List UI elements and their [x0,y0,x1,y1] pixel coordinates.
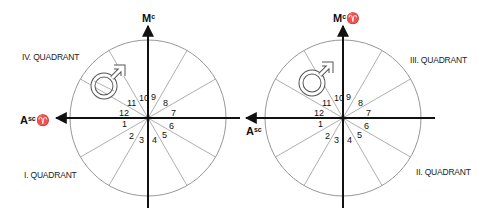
svg-text:4: 4 [347,135,352,145]
right-wheel: Mc♈ Asc III. QUADRANT II. QUADRANT 1 2 3… [246,12,471,208]
svg-text:9: 9 [151,92,156,102]
svg-text:9: 9 [346,92,351,102]
mc-label: Mc [142,12,155,24]
quadrant-label-iv: IV. QUADRANT [22,52,79,62]
asc-label: Asc♈ [20,114,50,127]
svg-text:6: 6 [364,121,369,131]
svg-text:7: 7 [171,108,176,118]
quadrant-label-iii: III. QUADRANT [410,55,467,65]
svg-text:3: 3 [334,135,339,145]
asc-label: Asc [246,125,262,137]
mars-icon [93,67,123,97]
svg-text:5: 5 [357,130,362,140]
svg-text:10: 10 [334,93,344,103]
svg-text:1: 1 [318,119,323,129]
svg-text:5: 5 [162,130,167,140]
svg-text:2: 2 [325,131,330,141]
svg-text:11: 11 [322,98,331,108]
svg-text:8: 8 [163,98,168,108]
quadrant-label-i: I. QUADRANT [24,170,77,180]
svg-text:12: 12 [314,108,324,118]
mc-label: Mc♈ [333,12,360,25]
left-wheel: Mc Asc♈ IV. QUADRANT I. QUADRANT 1 2 3 4… [20,12,240,208]
svg-text:7: 7 [366,108,371,118]
svg-text:6: 6 [169,121,174,131]
svg-text:4: 4 [152,135,157,145]
svg-text:11: 11 [127,98,136,108]
svg-text:12: 12 [119,108,129,118]
aries-icon: ♈ [346,12,360,25]
svg-text:8: 8 [358,98,363,108]
svg-text:2: 2 [129,131,134,141]
svg-text:10: 10 [139,93,149,103]
svg-text:3: 3 [139,135,144,145]
quadrant-label-ii: II. QUADRANT [416,167,471,177]
svg-text:1: 1 [122,119,127,129]
astrology-quadrant-diagram: Mc Asc♈ IV. QUADRANT I. QUADRANT 1 2 3 4… [0,0,490,218]
aries-icon: ♈ [36,114,50,127]
